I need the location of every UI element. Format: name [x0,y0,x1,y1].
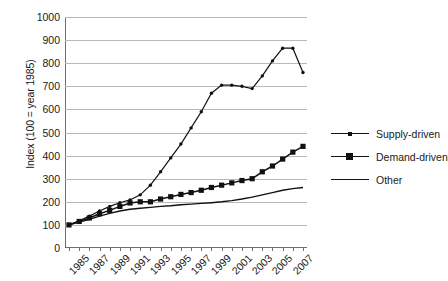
x-tick-label: 2007 [291,252,315,276]
x-tick-label: 1987 [87,252,111,276]
data-point-demand [199,188,204,193]
x-tick-mark [110,248,111,251]
x-tick-label: 2005 [270,252,294,276]
data-point-supply [149,183,152,186]
data-point-demand [270,163,275,168]
x-tick-label: 1995 [169,252,193,276]
x-tick-label: 1989 [108,252,132,276]
data-point-supply [159,170,162,173]
x-tick-label: 1985 [67,252,91,276]
legend-label-demand-driven: Demand-driven [376,151,448,163]
data-point-supply [261,74,264,77]
data-point-supply [169,156,172,159]
data-point-supply [108,205,111,208]
data-point-demand [158,196,163,201]
legend-item-other: Other [331,168,448,191]
data-point-supply [230,83,233,86]
data-point-supply [189,126,192,129]
y-tick-label: 900 [42,35,60,45]
x-tick-mark [252,248,253,251]
data-point-supply [281,46,284,49]
x-tick-label: 1999 [209,252,233,276]
data-point-supply [250,87,253,90]
x-tick-mark [79,248,80,251]
x-tick-mark [222,248,223,251]
series-layer [65,17,307,248]
y-tick-label: 800 [42,58,60,68]
legend-item-demand-driven: Demand-driven [331,145,448,168]
series-line-supply [69,48,303,225]
legend-item-supply-driven: Supply-driven [331,122,448,145]
y-tick-label: 400 [42,151,60,161]
legend-marker-supply-driven-icon [331,128,369,140]
x-tick-label: 1997 [189,252,213,276]
y-tick-label: 0 [54,243,60,253]
x-tick-mark [272,248,273,251]
y-tick-label: 300 [42,174,60,184]
x-tick-label: 1993 [148,252,172,276]
data-point-demand [117,204,122,209]
data-point-supply [139,193,142,196]
data-point-supply [240,85,243,88]
series-line-demand [69,146,303,225]
data-point-demand [127,200,132,205]
data-point-supply [210,92,213,95]
x-tick-mark [201,248,202,251]
data-point-supply [220,83,223,86]
y-tick-label: 500 [42,128,60,138]
x-tick-label: 2003 [250,252,274,276]
x-tick-label: 2001 [230,252,254,276]
y-tick-label: 100 [42,220,60,230]
legend-marker-demand-driven-icon [331,151,369,163]
data-point-demand [168,194,173,199]
data-point-demand [107,208,112,213]
data-point-supply [179,142,182,145]
x-tick-mark [283,248,284,251]
x-tick-label: 1991 [128,252,152,276]
data-point-supply [301,71,304,74]
legend-label-supply-driven: Supply-driven [376,128,440,140]
x-tick-mark [191,248,192,251]
x-tick-mark [262,248,263,251]
x-tick-mark [130,248,131,251]
x-tick-mark [171,248,172,251]
data-point-demand [188,190,193,195]
x-tick-mark [100,248,101,251]
x-tick-mark [293,248,294,251]
plot-area: 01002003004005006007008009001000 1985198… [65,17,307,248]
y-tick-label: 1000 [37,12,60,22]
y-tick-label: 200 [42,197,60,207]
x-tick-mark [242,248,243,251]
x-tick-mark [161,248,162,251]
data-point-demand [300,144,305,149]
data-point-demand [148,199,153,204]
y-axis-title: Index (100 = year 1985) [24,29,36,199]
y-tick-label: 600 [42,104,60,114]
data-point-demand [239,178,244,183]
x-tick-mark [120,248,121,251]
chart-legend: Supply-driven Demand-driven Other [331,122,448,191]
y-tick-label: 700 [42,81,60,91]
x-tick-mark [232,248,233,251]
x-tick-mark [181,248,182,251]
data-point-demand [209,185,214,190]
data-point-supply [291,46,294,49]
data-point-demand [250,176,255,181]
data-point-demand [260,169,265,174]
x-tick-mark [140,248,141,251]
x-tick-mark [150,248,151,251]
legend-label-other: Other [376,174,402,186]
data-point-demand [219,183,224,188]
x-tick-mark [69,248,70,251]
data-point-demand [138,199,143,204]
data-point-supply [271,59,274,62]
data-point-demand [290,150,295,155]
x-tick-mark [89,248,90,251]
data-point-demand [280,156,285,161]
data-point-demand [178,192,183,197]
legend-marker-other-icon [331,174,369,186]
x-tick-mark [303,248,304,251]
x-tick-mark [211,248,212,251]
data-point-supply [200,110,203,113]
